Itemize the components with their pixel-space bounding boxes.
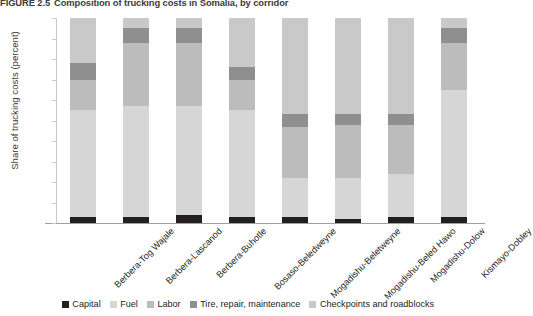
bar-segment[interactable]	[229, 80, 255, 111]
figure-number: FIGURE 2.5	[0, 0, 50, 8]
bar-segment[interactable]	[282, 178, 308, 217]
bar-segment[interactable]	[388, 174, 414, 217]
bar-segment[interactable]	[388, 114, 414, 124]
bar-segment[interactable]	[282, 18, 308, 114]
bar-segment[interactable]	[70, 18, 96, 63]
legend-item[interactable]: Capital	[62, 299, 101, 309]
bar-segment[interactable]	[335, 219, 361, 223]
x-axis-line	[45, 223, 485, 224]
legend-label: Checkpoints and roadblocks	[320, 299, 434, 309]
legend-item[interactable]: Checkpoints and roadblocks	[309, 299, 434, 309]
legend-item[interactable]: Fuel	[110, 299, 138, 309]
bar-segment[interactable]	[441, 90, 467, 217]
bar-segment[interactable]	[335, 18, 361, 114]
bar-segment[interactable]	[282, 217, 308, 223]
legend-swatch-icon	[190, 301, 197, 308]
bar-segment[interactable]	[123, 217, 149, 223]
legend-label: Tire, repair, maintenance	[200, 299, 300, 309]
bar-segment[interactable]	[388, 217, 414, 223]
figure-title: FIGURE 2.5Composition of trucking costs …	[0, 0, 496, 11]
bar-segment[interactable]	[70, 110, 96, 217]
bar-segment[interactable]	[282, 127, 308, 178]
bar-stack[interactable]	[282, 18, 308, 223]
x-axis-label: Kismayo-Dobley	[479, 226, 533, 280]
bar-stack[interactable]	[441, 18, 467, 223]
bar-stack[interactable]	[123, 18, 149, 223]
legend-item[interactable]: Tire, repair, maintenance	[190, 299, 301, 309]
legend-item[interactable]: Labor	[147, 299, 181, 309]
x-axis-label: Bosaso-Beledweyne	[272, 226, 338, 292]
bar-segment[interactable]	[229, 217, 255, 223]
legend-swatch-icon	[309, 301, 316, 308]
legend-swatch-icon	[62, 301, 69, 308]
bar-segment[interactable]	[335, 114, 361, 124]
bar-segment[interactable]	[70, 80, 96, 111]
bar-segment[interactable]	[70, 217, 96, 223]
bar-stack[interactable]	[335, 18, 361, 223]
legend-label: Labor	[157, 299, 180, 309]
y-tick-mark-0	[52, 223, 56, 224]
legend-swatch-icon	[147, 301, 154, 308]
legend-label: Fuel	[120, 299, 138, 309]
legend-swatch-icon	[110, 301, 117, 308]
bar-segment[interactable]	[441, 217, 467, 223]
bar-segment[interactable]	[70, 63, 96, 79]
bar-segment[interactable]	[441, 18, 467, 28]
bar-segment[interactable]	[335, 178, 361, 219]
bar-segment[interactable]	[123, 43, 149, 107]
plot-area	[56, 18, 480, 223]
y-axis-title: Share of trucking costs (percent)	[9, 1, 20, 201]
bar-segment[interactable]	[441, 43, 467, 90]
bar-segment[interactable]	[388, 125, 414, 174]
bar-segment[interactable]	[176, 215, 202, 223]
bar-stack[interactable]	[388, 18, 414, 223]
bar-segment[interactable]	[388, 18, 414, 114]
figure-title-text: Composition of trucking costs in Somalia…	[54, 0, 288, 8]
bar-segment[interactable]	[176, 28, 202, 42]
bar-stack[interactable]	[229, 18, 255, 223]
bar-segment[interactable]	[123, 18, 149, 28]
x-axis-label: Mogadishu-Dolow	[428, 226, 487, 285]
chart-legend: CapitalFuelLaborTire, repair, maintenanc…	[0, 299, 496, 309]
bar-segment[interactable]	[229, 67, 255, 79]
bar-stack[interactable]	[70, 18, 96, 223]
legend-label: Capital	[72, 299, 100, 309]
bar-stack[interactable]	[176, 18, 202, 223]
bar-segment[interactable]	[176, 43, 202, 107]
bar-segment[interactable]	[441, 28, 467, 42]
bar-segment[interactable]	[176, 106, 202, 215]
bar-segment[interactable]	[335, 125, 361, 178]
bar-segment[interactable]	[229, 110, 255, 217]
bar-segment[interactable]	[282, 114, 308, 126]
bar-segment[interactable]	[176, 18, 202, 28]
bar-segment[interactable]	[123, 28, 149, 42]
bar-segment[interactable]	[123, 106, 149, 217]
bar-segment[interactable]	[229, 18, 255, 67]
